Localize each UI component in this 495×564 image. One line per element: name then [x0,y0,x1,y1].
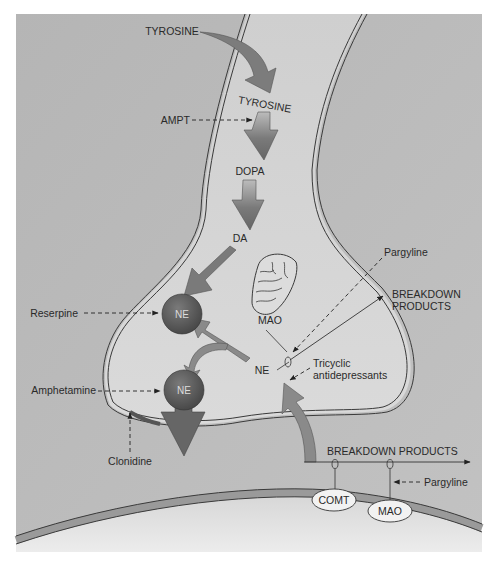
reserpine-label: Reserpine [30,307,78,319]
breakdown-inside-line1: BREAKDOWN [392,288,461,300]
vesicle-2-label: NE [177,385,191,396]
amphetamine-label: Amphetamine [31,384,96,396]
vesicle-2: NE [164,370,204,410]
dopa-label: DOPA [236,165,265,177]
vesicle-1: NE [162,294,202,334]
tricyclic-label-line1: Tricyclic [313,357,351,369]
breakdown-cleft-label: BREAKDOWN PRODUCTS [327,445,458,457]
pargyline-inside-label: Pargyline [384,246,428,258]
breakdown-inside-line2: PRODUCTS [392,300,451,312]
mao-mito-label: MAO [258,314,282,326]
mao-postsynaptic-enzyme: MAO [368,500,412,522]
cytoplasmic-ne-label: NE [255,364,270,376]
tyrosine-outside-label: TYROSINE [145,25,199,37]
comt-label: COMT [319,494,350,506]
pargyline-cleft-label: Pargyline [424,476,468,488]
vesicle-1-label: NE [175,309,189,320]
da-label: DA [233,232,248,244]
mao-postsynaptic-label: MAO [378,505,402,517]
ampt-label: AMPT [161,114,191,126]
comt-enzyme: COMT [312,489,356,511]
clonidine-label: Clonidine [108,455,152,467]
tricyclic-label-line2: antidepressants [313,369,387,381]
synapse-diagram: NE NE TYROSINE TYROSINE DOPA DA MAO NE B… [0,0,495,564]
